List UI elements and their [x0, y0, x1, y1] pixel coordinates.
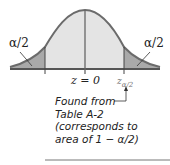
note-line: (corresponds to — [55, 120, 139, 133]
right-tail-label: α/2 — [144, 36, 164, 50]
note-line: Found from — [55, 95, 139, 108]
note-text: Found from Table A-2 (corresponds to are… — [55, 95, 139, 145]
note-line: area of 1 − α/2) — [55, 133, 139, 146]
left-tail-label: α/2 — [9, 36, 29, 50]
critical-z-sub: α/2 — [122, 81, 134, 89]
critical-z-label: zα/2 — [117, 76, 133, 89]
note-line: Table A-2 — [55, 108, 139, 121]
center-z-label: z = 0 — [71, 74, 100, 87]
